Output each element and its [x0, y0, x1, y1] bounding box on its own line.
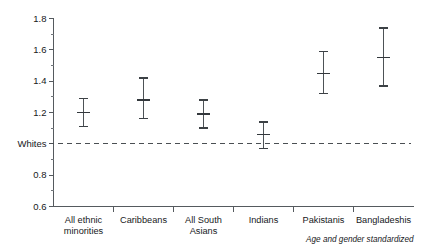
- y-tick-label: 1.8: [33, 13, 46, 24]
- x-category-label: Indians: [249, 215, 279, 225]
- error-bar: [137, 78, 150, 119]
- y-tick-label: Whites: [17, 138, 46, 149]
- x-category-label: All SouthAsians: [185, 215, 222, 236]
- chart-footnote: Age and gender standardized: [305, 235, 414, 244]
- y-tick-label: 1.6: [33, 44, 46, 55]
- error-bar: [197, 100, 210, 128]
- error-bar: [257, 122, 270, 149]
- x-category-label: Pakistanis: [303, 215, 345, 225]
- footnote-text: Age and gender standardized: [305, 235, 414, 244]
- chart-canvas: 0.60.8Whites1.21.41.61.8 All ethnicminor…: [0, 0, 427, 248]
- y-tick-label: 0.6: [33, 201, 46, 212]
- error-bar-chart: 0.60.8Whites1.21.41.61.8 All ethnicminor…: [0, 0, 427, 248]
- y-tick-label: 1.4: [33, 75, 46, 86]
- error-bar: [77, 98, 90, 126]
- x-category-label: Bangladeshis: [356, 215, 412, 225]
- error-bar: [377, 28, 390, 86]
- x-category-label: All ethnicminorities: [64, 215, 104, 236]
- error-bar: [317, 51, 330, 93]
- x-category-label: Caribbeans: [120, 215, 167, 225]
- y-tick-label: 1.2: [33, 107, 46, 118]
- data-points: [77, 28, 390, 149]
- x-tick-labels: All ethnicminoritiesCaribbeansAll SouthA…: [64, 215, 412, 236]
- y-tick-label: 0.8: [33, 169, 46, 180]
- x-axis: [54, 207, 414, 212]
- y-axis: 0.60.8Whites1.21.41.61.8: [17, 13, 53, 212]
